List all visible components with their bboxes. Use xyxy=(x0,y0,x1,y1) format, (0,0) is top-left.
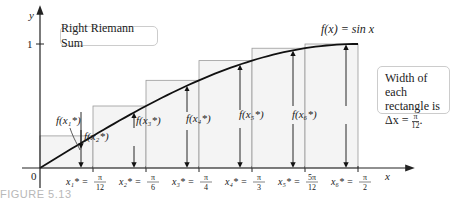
f-value-label: f(x₁*) xyxy=(56,114,81,127)
x-star-label: x₄* = xyxy=(224,176,247,187)
fraction-numerator: 5π xyxy=(308,173,316,182)
width-note-line1: Width of each xyxy=(385,71,449,99)
fraction-denominator: 4 xyxy=(204,183,208,192)
fraction-numerator: π xyxy=(257,173,261,182)
fraction-denominator: 3 xyxy=(257,183,261,192)
width-note-box: Width of each rectangle is Δx = π12. xyxy=(377,66,450,114)
delta-suffix: . xyxy=(419,113,422,127)
figure-caption: FIGURE 5.13 xyxy=(0,188,72,200)
x-star-label: x₆* = xyxy=(330,176,353,187)
f-value-label: f(x₄*) xyxy=(186,112,211,125)
riemann-rectangle xyxy=(305,44,358,168)
fraction-denominator: 12 xyxy=(308,183,316,192)
title-label: Right Riemann Sum xyxy=(61,21,157,51)
y-axis-label: y xyxy=(28,9,34,21)
x-star-label: x₂* = xyxy=(118,176,141,187)
fraction-denominator: 6 xyxy=(151,183,155,192)
width-note-line2: rectangle is xyxy=(385,99,449,113)
f-value-label: f(x₂*) xyxy=(84,130,109,143)
y-tick-label: 1 xyxy=(27,38,33,50)
fraction-numerator: π xyxy=(98,173,102,182)
f-value-label: f(x₅*) xyxy=(239,108,264,121)
x-star-label: x₅* = xyxy=(277,176,300,187)
f-value-label: f(x₃*) xyxy=(136,114,161,127)
fraction-numerator: π xyxy=(204,173,208,182)
x-axis-label: x xyxy=(384,170,390,182)
title-box: Right Riemann Sum xyxy=(60,26,158,46)
fraction-numerator: π xyxy=(363,173,367,182)
delta-prefix: Δx = xyxy=(385,113,411,127)
fraction-denominator: 2 xyxy=(363,183,367,192)
x-star-label: x₃* = xyxy=(171,176,194,187)
width-note-line3: Δx = π12. xyxy=(385,113,449,130)
x-tick-labels: x₁* = π12x₂* = π6x₃* = π4x₄* = π3x₅* = 5… xyxy=(65,173,371,192)
origin-label: 0 xyxy=(31,170,37,182)
x-star-label: x₁* = xyxy=(65,176,88,187)
function-label: f(x) = sin x xyxy=(321,22,375,36)
fraction-numerator: π xyxy=(151,173,155,182)
f-value-label: f(x₆*) xyxy=(292,108,317,121)
fraction-denominator: 12 xyxy=(96,183,104,192)
